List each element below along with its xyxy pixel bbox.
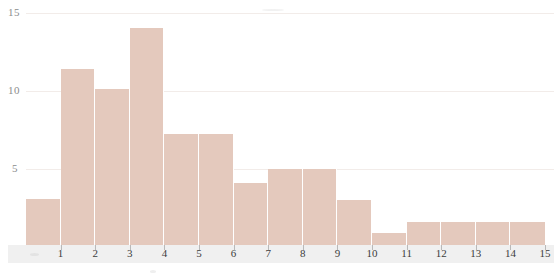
xtick-label-5: 5 — [187, 248, 211, 259]
xtick-label-12: 12 — [429, 248, 453, 259]
xtick-label-15: 15 — [533, 248, 554, 259]
bar — [337, 200, 372, 245]
bar — [510, 222, 545, 245]
xtick-label-9: 9 — [325, 248, 349, 259]
xtick-label-7: 7 — [256, 248, 280, 259]
bar — [95, 89, 130, 245]
bar — [26, 199, 61, 245]
xtick-label-4: 4 — [152, 248, 176, 259]
bar — [199, 134, 234, 245]
scan-speck — [30, 253, 39, 256]
bar — [268, 169, 303, 245]
bar — [61, 69, 96, 245]
xtick-label-14: 14 — [498, 248, 522, 259]
bar — [234, 183, 269, 245]
scan-speck — [150, 270, 156, 273]
bar — [130, 28, 165, 245]
bar — [476, 222, 511, 245]
xtick-label-1: 1 — [49, 248, 73, 259]
xtick-label-2: 2 — [83, 248, 107, 259]
xtick-label-6: 6 — [222, 248, 246, 259]
xtick-label-3: 3 — [118, 248, 142, 259]
bar — [372, 233, 407, 245]
bar — [164, 134, 199, 245]
xtick-label-8: 8 — [291, 248, 315, 259]
xtick-label-11: 11 — [395, 248, 419, 259]
xtick-label-10: 10 — [360, 248, 384, 259]
scan-speck — [262, 9, 284, 11]
bar — [441, 222, 476, 245]
bar — [303, 169, 338, 245]
histogram-chart: 15 10 5 123456789101112131415 — [0, 0, 554, 280]
xtick-label-13: 13 — [464, 248, 488, 259]
plot-area: 15 10 5 123456789101112131415 — [0, 0, 554, 280]
bar — [407, 222, 442, 245]
bars-layer — [0, 0, 554, 280]
